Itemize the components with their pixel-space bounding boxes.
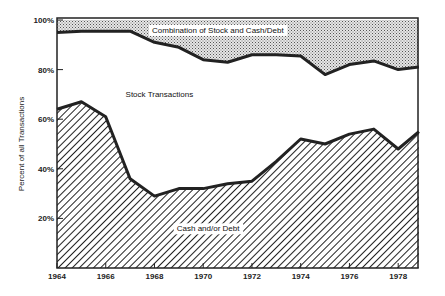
annotation-label: Combination of Stock and Cash/Debt <box>149 25 287 36</box>
annotation-label: Cash and/or Debt <box>174 223 243 234</box>
x-tick-label: 1976 <box>341 272 359 281</box>
svg-text:Stock Transactions: Stock Transactions <box>126 90 194 99</box>
x-tick-label: 1974 <box>292 272 310 281</box>
svg-text:Cash and/or Debt: Cash and/or Debt <box>177 224 240 233</box>
annotation-label: Stock Transactions <box>123 89 197 100</box>
x-tick-label: 1966 <box>97 272 115 281</box>
x-tick-label: 1970 <box>194 272 212 281</box>
y-axis-title: Percent of all Transactions <box>17 97 26 191</box>
x-tick-label: 1964 <box>48 272 66 281</box>
y-tick-label: 40% <box>38 165 54 174</box>
y-tick-label: 60% <box>38 115 54 124</box>
x-tick-label: 1978 <box>389 272 407 281</box>
stacked-area-chart: 20%40%60%80%100% 19641966196819701972197… <box>0 0 445 296</box>
y-tick-label: 100% <box>34 16 54 25</box>
y-tick-label: 20% <box>38 214 54 223</box>
x-tick-label: 1972 <box>243 272 261 281</box>
svg-text:Combination of Stock and Cash/: Combination of Stock and Cash/Debt <box>152 26 284 35</box>
x-tick-label: 1968 <box>146 272 164 281</box>
y-tick-label: 80% <box>38 66 54 75</box>
